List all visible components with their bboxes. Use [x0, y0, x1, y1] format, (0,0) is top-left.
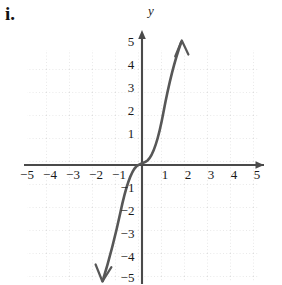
x-tick-label-minus3: −3	[63, 168, 83, 181]
x-tick-label-5: 5	[250, 168, 264, 181]
y-axis-arrowhead	[138, 30, 146, 39]
y-axis-label: y	[148, 4, 154, 17]
x-tick-label-4: 4	[227, 168, 241, 181]
x-tick-label-1: 1	[158, 168, 172, 181]
y-tick-label-2: 2	[124, 104, 138, 117]
y-tick-label-1: 1	[124, 127, 138, 140]
y-tick-label-minus4: −4	[117, 250, 138, 263]
y-tick-label-minus2: −2	[117, 204, 138, 217]
y-tick-label-minus3: −3	[117, 227, 138, 240]
y-tick-label-5: 5	[124, 35, 138, 48]
x-tick-label-minus2: −2	[86, 168, 106, 181]
x-tick-label-3: 3	[204, 168, 218, 181]
y-tick-label-4: 4	[124, 58, 138, 71]
x-tick-label-minus4: −4	[40, 168, 60, 181]
coordinate-plane	[0, 0, 282, 285]
x-tick-label-2: 2	[181, 168, 195, 181]
figure-container: i. y −5 −4 −3 −2 −1 1 2 3 4 5	[0, 0, 282, 285]
y-tick-label-3: 3	[124, 81, 138, 94]
x-tick-label-minus5: −5	[17, 168, 37, 181]
y-tick-label-minus1: −1	[117, 181, 138, 194]
y-tick-label-minus5: −5	[117, 271, 138, 284]
